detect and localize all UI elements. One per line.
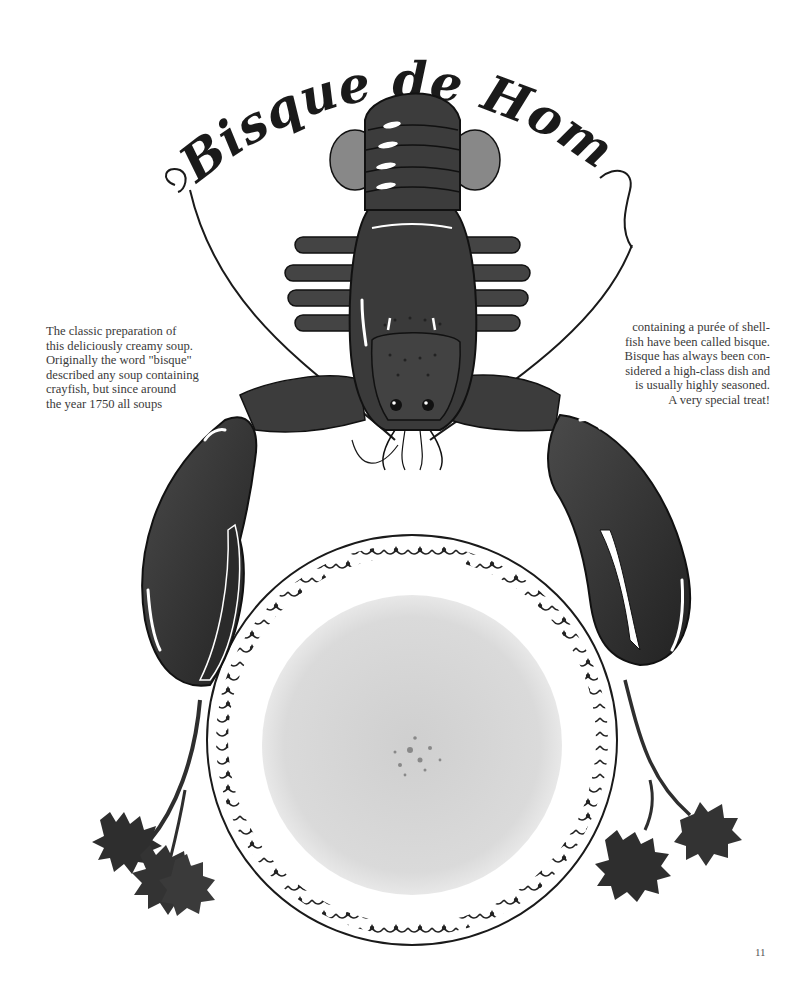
text-line: the year 1750 all soups bbox=[46, 397, 276, 412]
text-line: described any soup containing bbox=[46, 368, 276, 383]
text-line: is usually highly seasoned. bbox=[548, 378, 770, 393]
text-line: A very special treat! bbox=[548, 393, 770, 408]
text-line: containing a purée of shell- bbox=[548, 320, 770, 335]
page-number: 11 bbox=[755, 946, 766, 958]
text-line: The classic preparation of bbox=[46, 324, 276, 339]
text-line: crayfish, but since around bbox=[46, 382, 276, 397]
bisque-illustration: Bisque de Homard bbox=[0, 0, 805, 1000]
intro-paragraph-left: The classic preparation of this deliciou… bbox=[46, 324, 276, 412]
svg-text:Bisque de Homard: Bisque de Homard bbox=[0, 0, 625, 194]
text-line: fish have been called bisque. bbox=[548, 335, 770, 350]
parsley-left bbox=[92, 700, 215, 916]
soup-plate bbox=[207, 535, 617, 945]
intro-paragraph-right: containing a purée of shell- fish have b… bbox=[548, 320, 770, 408]
text-line: Bisque has always been con- bbox=[548, 349, 770, 364]
text-line: this deliciously creamy soup. bbox=[46, 339, 276, 354]
text-line: Originally the word "bisque" bbox=[46, 353, 276, 368]
bisque-soup bbox=[262, 595, 562, 895]
text-line: sidered a high-class dish and bbox=[548, 364, 770, 379]
lobster-body bbox=[350, 210, 477, 470]
parsley-right bbox=[595, 680, 742, 902]
title: Bisque de Homard bbox=[0, 0, 632, 248]
